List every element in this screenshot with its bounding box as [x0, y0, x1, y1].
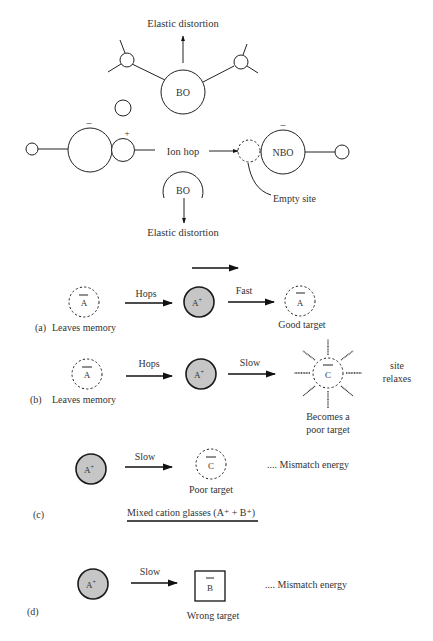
section-heading: Mixed cation glasses (A⁺ + B⁺): [127, 507, 255, 519]
target-caption: Good target: [278, 319, 326, 330]
bond-left: [132, 64, 165, 80]
panel-c: A+ Slow C Poor target .... Mismatch ener…: [33, 449, 349, 521]
empty-site-label: Empty site: [273, 193, 317, 204]
empty-site-circle: [238, 140, 260, 162]
panel-a: A (a) Leaves memory Hops A+ Fast A Good …: [35, 268, 326, 334]
isolated-atom: [115, 100, 131, 116]
panel-tag: (c): [33, 509, 44, 521]
minus-sign: –: [86, 117, 93, 128]
target-symbol: C: [325, 370, 331, 380]
hops-label: Hops: [135, 288, 156, 299]
target-caption: Poor target: [189, 484, 233, 495]
target-symbol: B: [207, 583, 213, 593]
hops-label: Hops: [138, 358, 159, 369]
source-symbol: A: [84, 370, 91, 380]
ion-hopping-diagram: Elastic distortion BO – + Ion hop NBO –: [0, 0, 433, 641]
mismatch-note: .... Mismatch energy: [265, 579, 347, 590]
side-note-line2: relaxes: [383, 373, 411, 384]
bond-stub: [120, 40, 125, 53]
minus-sign: –: [280, 119, 287, 130]
source-symbol: A: [81, 298, 88, 308]
panel-tag: (a): [35, 322, 46, 334]
source-caption: Leaves memory: [52, 322, 116, 333]
target-caption-line2: poor target: [306, 424, 350, 435]
rate-label: Fast: [236, 285, 253, 296]
rate-label: Slow: [140, 566, 161, 577]
panel-tag: (b): [30, 394, 42, 406]
panel-tag: (d): [27, 606, 39, 618]
panel-d: A+ Slow B Wrong target .... Mismatch ene…: [27, 566, 347, 621]
mismatch-note: .... Mismatch energy: [267, 459, 349, 470]
bond-stub: [243, 44, 247, 55]
target-symbol: A: [297, 298, 304, 308]
glass-network-section: Elastic distortion BO – + Ion hop NBO –: [26, 18, 349, 238]
target-caption-line1: Becomes a: [306, 411, 350, 422]
bond-stub: [247, 66, 258, 73]
anion-circle: [68, 128, 112, 172]
network-atom-right: [234, 55, 248, 69]
network-atom-left: [120, 53, 134, 67]
panel-b: A (b) Leaves memory Hops A+ Slow C site …: [30, 339, 411, 435]
cation-circle: [112, 139, 135, 162]
ion-hop-label: Ion hop: [167, 146, 199, 157]
nbo-label: NBO: [272, 147, 293, 158]
target-caption: Wrong target: [187, 610, 240, 621]
rate-label: Slow: [240, 357, 261, 368]
bond-stub: [108, 64, 121, 72]
bo-bottom-label: BO: [176, 185, 190, 196]
bo-top-label: BO: [176, 87, 190, 98]
elastic-distortion-bottom-label: Elastic distortion: [147, 227, 219, 238]
elastic-distortion-top-label: Elastic distortion: [147, 18, 219, 29]
side-note-line1: site: [390, 360, 404, 371]
source-caption: Leaves memory: [52, 394, 116, 405]
plus-sign: +: [124, 128, 129, 138]
chain-end-atom-right: [335, 145, 349, 159]
chain-end-atom-left: [26, 143, 38, 155]
bond-right: [203, 66, 234, 82]
target-symbol: C: [208, 461, 214, 471]
rate-label: Slow: [135, 451, 156, 462]
